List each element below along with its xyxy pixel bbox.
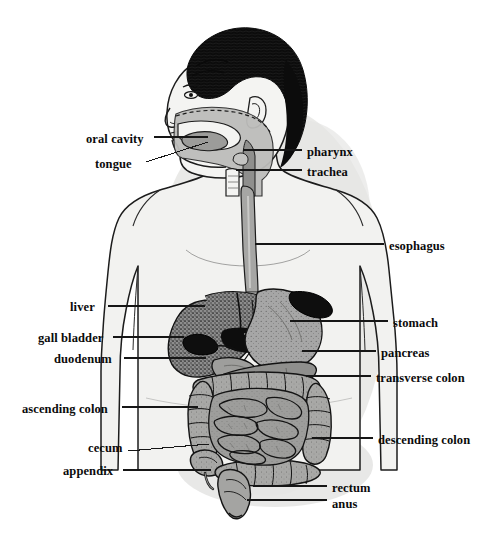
label-esophagus: esophagus [389, 240, 445, 253]
label-cecum: cecum [88, 442, 123, 455]
label-stomach: stomach [393, 317, 438, 330]
label-rectum: rectum [332, 482, 371, 495]
label-gall-bladder: gall bladder [38, 332, 103, 345]
label-oral-cavity: oral cavity [86, 133, 144, 146]
label-descending-colon: descending colon [378, 434, 470, 447]
digestive-system-figure: oral cavitytonguelivergall bladderduoden… [0, 0, 494, 540]
label-anus: anus [332, 498, 357, 511]
label-ascending-colon: ascending colon [22, 403, 108, 416]
small-intestine [209, 388, 309, 465]
anatomy-illustration [0, 0, 494, 540]
label-transverse-colon: transverse colon [376, 372, 465, 385]
label-appendix: appendix [63, 465, 113, 478]
label-pancreas: pancreas [381, 347, 430, 360]
label-trachea: trachea [307, 166, 348, 179]
rectum-anus [218, 469, 251, 518]
label-duodenum: duodenum [54, 353, 112, 366]
label-liver: liver [70, 301, 95, 314]
label-tongue: tongue [95, 158, 132, 171]
label-pharynx: pharynx [307, 146, 353, 159]
